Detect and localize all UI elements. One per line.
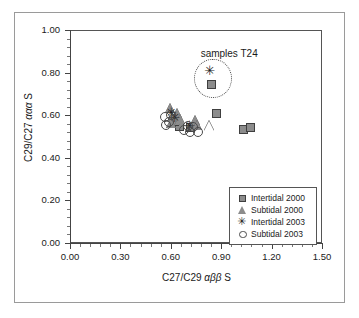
x-tick-major xyxy=(322,244,323,249)
x-tick-minor xyxy=(151,244,152,247)
x-tick-minor xyxy=(100,244,101,247)
legend-circle-open-icon xyxy=(236,228,250,240)
x-tick-label: 0.60 xyxy=(151,252,191,262)
x-tick-label: 0.00 xyxy=(50,252,90,262)
y-tick-major xyxy=(65,30,70,31)
x-tick-minor xyxy=(110,244,111,247)
legend-item-label: Subtidal 2003 xyxy=(251,228,303,240)
x-tick-minor xyxy=(211,244,212,247)
y-tick-major xyxy=(65,73,70,74)
data-point-square xyxy=(246,123,255,132)
x-tick-minor xyxy=(90,244,91,247)
legend-item-label: Intertidal 2003 xyxy=(251,216,305,228)
x-tick-label: 0.90 xyxy=(201,252,241,262)
data-point-triangle-open xyxy=(204,118,214,131)
t24-annotation-ellipse xyxy=(194,59,231,98)
y-tick-minor xyxy=(67,141,70,142)
legend-item-triangle: Subtidal 2000 xyxy=(236,204,310,216)
y-tick-label: 0.00 xyxy=(26,238,60,248)
data-point-circle-open xyxy=(166,110,176,120)
y-axis-title: C29/C27 ααα S xyxy=(23,38,34,218)
legend-item-circle-open: Subtidal 2003 xyxy=(236,228,310,240)
figure-canvas: 0.000.200.400.600.801.000.000.300.600.90… xyxy=(0,0,359,318)
data-point-circle-open xyxy=(193,127,203,137)
y-tick-minor xyxy=(67,56,70,57)
legend-square-icon xyxy=(236,192,250,204)
y-tick-label: 1.00 xyxy=(26,25,60,35)
y-tick-minor xyxy=(67,234,70,235)
y-tick-minor xyxy=(67,47,70,48)
x-tick-major xyxy=(70,244,71,249)
y-tick-major xyxy=(65,158,70,159)
x-tick-minor xyxy=(141,244,142,247)
y-tick-minor xyxy=(67,81,70,82)
x-tick-minor xyxy=(201,244,202,247)
y-tick-minor xyxy=(67,124,70,125)
t24-annotation-label: samples T24 xyxy=(201,48,258,59)
y-tick-minor xyxy=(67,209,70,210)
x-tick-major xyxy=(171,244,172,249)
y-tick-minor xyxy=(67,64,70,65)
y-tick-minor xyxy=(67,132,70,133)
y-tick-minor xyxy=(67,90,70,91)
y-tick-minor xyxy=(67,39,70,40)
y-tick-major xyxy=(65,200,70,201)
y-tick-major xyxy=(65,115,70,116)
legend-item-square: Intertidal 2000 xyxy=(236,192,310,204)
legend-item-star: ✳Intertidal 2003 xyxy=(236,216,310,228)
x-tick-minor xyxy=(130,244,131,247)
x-tick-major xyxy=(120,244,121,249)
legend-item-label: Intertidal 2000 xyxy=(251,192,305,204)
x-tick-minor xyxy=(80,244,81,247)
y-axis-line xyxy=(70,30,71,244)
legend-star-icon: ✳ xyxy=(236,216,250,228)
x-tick-minor xyxy=(191,244,192,247)
x-axis-title: C27/C29 αββ S xyxy=(70,272,323,283)
x-tick-label: 0.30 xyxy=(100,252,140,262)
y-tick-minor xyxy=(67,226,70,227)
legend-item-label: Subtidal 2000 xyxy=(251,204,303,216)
y-tick-minor xyxy=(67,175,70,176)
y-tick-minor xyxy=(67,166,70,167)
y-tick-minor xyxy=(67,183,70,184)
x-tick-label: 1.20 xyxy=(252,252,292,262)
x-tick-major xyxy=(221,244,222,249)
x-tick-label: 1.50 xyxy=(302,252,342,262)
y-tick-minor xyxy=(67,192,70,193)
y-tick-minor xyxy=(67,149,70,150)
y-tick-minor xyxy=(67,217,70,218)
x-tick-minor xyxy=(161,244,162,247)
y-tick-minor xyxy=(67,98,70,99)
chart-legend: Intertidal 2000Subtidal 2000✳Intertidal … xyxy=(229,187,317,245)
y-tick-minor xyxy=(67,107,70,108)
x-tick-minor xyxy=(181,244,182,247)
